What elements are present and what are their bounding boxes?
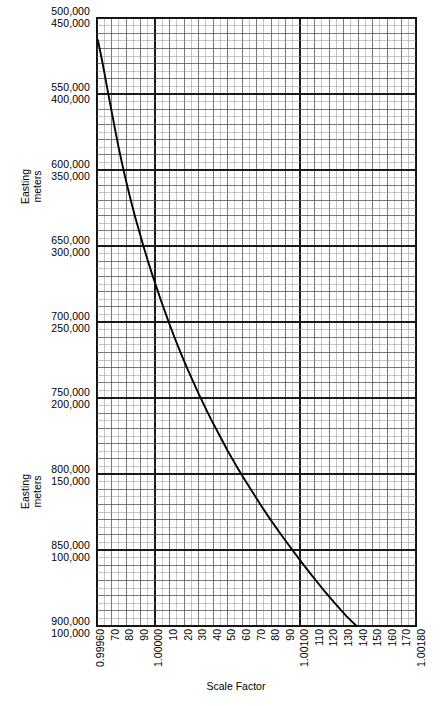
x-axis-title-text: Scale Factor: [207, 680, 266, 692]
x-tick-label: 1.00180: [416, 629, 427, 667]
x-tick-label: 0.99960: [95, 629, 106, 667]
y-tick-lower: 300,000: [51, 247, 90, 258]
x-tick-label: 90: [284, 629, 295, 641]
y-tick-upper: 850,000: [51, 540, 90, 551]
y-tick-upper: 800,000: [51, 464, 90, 475]
x-tick-label: 110: [314, 629, 325, 646]
y-axis-title-line: Easting: [20, 168, 32, 203]
x-tick-label: 170: [401, 629, 412, 647]
x-tick-label: 70: [109, 629, 120, 641]
x-tick-label: 80: [124, 629, 135, 641]
x-tick-label: 30: [197, 629, 208, 641]
y-tick-lower: 450,000: [51, 18, 90, 29]
y-tick-upper: 700,000: [51, 311, 90, 322]
x-tick-label: 40: [211, 629, 222, 641]
y-tick-lower: 150,000: [51, 476, 90, 487]
grid-and-curve: [97, 18, 416, 626]
x-tick-label: 1.00100: [299, 629, 310, 667]
x-tick-label: 130: [343, 629, 354, 647]
x-tick-label: 60: [241, 629, 252, 641]
x-tick-label: 20: [182, 629, 193, 641]
y-axis-title-line: Easting: [20, 473, 32, 508]
x-tick-label: 150: [372, 629, 383, 647]
x-tick-label: 1.00000: [153, 629, 164, 667]
y-axis-title-line: meters: [32, 473, 44, 508]
x-axis-title: Scale Factor: [0, 680, 440, 692]
y-tick-lower: 350,000: [51, 171, 90, 182]
x-tick-label: 120: [328, 629, 339, 647]
y-tick-upper: 900,000: [51, 616, 90, 627]
plot-area: [96, 17, 417, 627]
y-tick-upper: 650,000: [51, 235, 90, 246]
y-tick-lower: 250,000: [51, 323, 90, 334]
chart-figure: Eastingmeters Eastingmeters 500,000550,0…: [0, 0, 440, 706]
x-tick-label: 140: [357, 629, 368, 647]
x-tick-label: 90: [139, 629, 150, 641]
y-tick-lower: 100,000: [51, 552, 90, 563]
x-tick-label: 10: [168, 629, 179, 641]
x-tick-label: 70: [255, 629, 266, 641]
y-axis-title-line: meters: [32, 168, 44, 203]
y-tick-upper: 750,000: [51, 387, 90, 398]
y-tick-upper: 600,000: [51, 159, 90, 170]
y-tick-lower: 400,000: [51, 94, 90, 105]
x-tick-label: 80: [270, 629, 281, 641]
x-tick-label: 160: [387, 629, 398, 647]
y-tick-lower: 200,000: [51, 399, 90, 410]
y-tick-upper: 550,000: [51, 82, 90, 93]
x-tick-label: 50: [226, 629, 237, 641]
y-tick-lower: 100,000: [51, 628, 90, 639]
y-axis-title-upper: Eastingmeters: [20, 168, 43, 203]
y-tick-upper: 500,000: [51, 6, 90, 17]
y-axis-title-lower: Eastingmeters: [20, 473, 43, 508]
